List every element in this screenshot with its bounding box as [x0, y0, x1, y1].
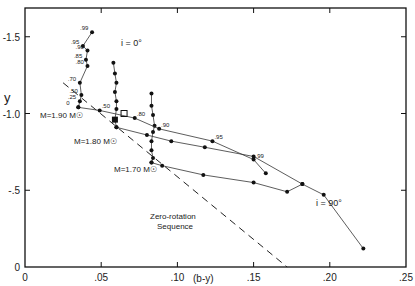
x-tick-label: 0 — [22, 272, 28, 283]
svg-text:.99: .99 — [256, 153, 265, 159]
x-axis-label: (b-y) — [193, 273, 214, 284]
svg-text:.85: .85 — [74, 53, 83, 59]
svg-text:0: 0 — [66, 100, 70, 106]
svg-text:.70: .70 — [68, 76, 77, 82]
y-tick-label: -1.5 — [3, 32, 21, 43]
annotation-i90: i = 90° — [316, 198, 342, 208]
x-tick-label: .20 — [323, 272, 337, 283]
y-tick-label: 0 — [14, 262, 20, 273]
annotation-m170: M=1.70 M☉ — [114, 165, 157, 174]
y-axis-label: y — [4, 90, 11, 105]
chart: 0.05.10.15.20.250-.5-1.0-1.5 0.25.50.70.… — [0, 0, 415, 286]
annotation-i0: i = 0° — [121, 38, 142, 48]
svg-text:.25: .25 — [68, 94, 77, 100]
y-tick-label: -.5 — [8, 185, 20, 196]
svg-text:.95: .95 — [214, 134, 223, 140]
x-tick-label: .15 — [247, 272, 261, 283]
series-layer: 0.25.50.70.80.85.90.95.99.50.80.90.95.99 — [63, 25, 365, 267]
svg-text:.80: .80 — [75, 59, 84, 65]
svg-text:.95: .95 — [71, 39, 80, 45]
axis-ticks: 0.05.10.15.20.250-.5-1.0-1.5 — [3, 8, 414, 283]
annotation-zrs1: Zero-rotation — [150, 212, 196, 221]
x-tick-label: .25 — [399, 272, 413, 283]
annotation-m180: M=1.80 M☉ — [74, 137, 117, 146]
annotation-zrs2: Sequence — [157, 222, 194, 231]
x-tick-label: .10 — [170, 272, 184, 283]
svg-text:.99: .99 — [80, 25, 89, 31]
svg-text:.90: .90 — [161, 122, 170, 128]
y-tick-label: -1.0 — [3, 109, 21, 120]
svg-text:.50: .50 — [102, 103, 111, 109]
svg-text:.80: .80 — [137, 111, 146, 117]
x-tick-label: .05 — [94, 272, 108, 283]
annotation-m190: M=1.90 M☉ — [40, 111, 83, 120]
svg-text:.50: .50 — [69, 88, 78, 94]
